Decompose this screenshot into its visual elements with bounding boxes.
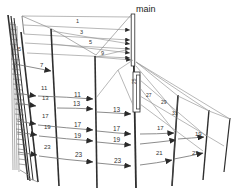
message-label: 13 [73, 100, 81, 107]
sequence-diagram-svg: main 1 3 5 5 7 9 11 11 13 13 13 17 17 17… [0, 0, 241, 192]
message-label: 23 [75, 151, 83, 158]
message-label: 25 [131, 78, 137, 84]
message-label: 5 [18, 46, 21, 52]
message-label: 19 [44, 124, 51, 130]
message-label: 17 [42, 113, 49, 119]
diagram-canvas: main 1 3 5 5 7 9 11 11 13 13 13 17 17 17… [0, 0, 241, 192]
message-label: 13 [113, 106, 121, 113]
message-label: 23 [192, 150, 199, 156]
message-label: 27 [146, 92, 152, 98]
message-label: 3 [80, 29, 83, 35]
message-label: 31 [172, 110, 178, 116]
message-label: 21 [156, 150, 163, 156]
main-lifeline-label: main [136, 4, 156, 14]
message-label: 17 [113, 125, 121, 132]
message-label: 9 [101, 50, 104, 56]
message-label: 5 [89, 39, 92, 45]
message-label: 29 [161, 99, 167, 105]
message-label: 19 [195, 131, 202, 137]
message-label: 17 [157, 125, 164, 131]
message-label: 19 [113, 136, 121, 143]
message-label: 23 [114, 157, 122, 164]
message-label: 23 [44, 144, 51, 150]
message-label: 11 [74, 91, 81, 98]
message-label: 19 [74, 132, 82, 139]
message-label: 1 [76, 18, 79, 24]
message-label: 17 [74, 121, 82, 128]
message-label: 11 [41, 85, 48, 91]
activation-main-top[interactable] [131, 14, 135, 66]
message-label: 13 [42, 95, 49, 101]
